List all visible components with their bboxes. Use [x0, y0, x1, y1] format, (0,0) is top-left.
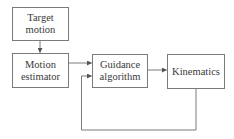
node-kinematics: Kinematics: [167, 54, 225, 89]
node-guidance-algorithm: Guidance algorithm: [92, 54, 148, 88]
node-label: estimator: [21, 71, 60, 83]
node-label: algorithm: [100, 71, 141, 83]
node-label: Kinematics: [172, 66, 220, 78]
node-label: Target: [26, 12, 56, 24]
node-motion-estimator: Motion estimator: [12, 53, 69, 88]
node-label: Guidance: [100, 59, 141, 71]
node-target-motion: Target motion: [12, 7, 69, 41]
node-label: motion: [26, 24, 56, 36]
node-label: Motion: [21, 59, 60, 71]
